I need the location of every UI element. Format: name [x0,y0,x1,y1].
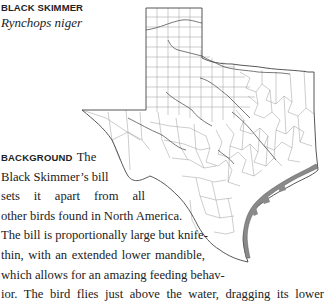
text-line-1: BACKGROUNDThe [1,148,111,168]
background-section: BACKGROUNDThe Black Skimmer’s bill sets … [1,148,324,305]
section-heading: BACKGROUND [1,152,73,163]
text-line-8: ior. The bird flies just above the water… [1,285,324,305]
text-line-4: other birds found in North America. [1,207,196,227]
text-line-5: The bill is proportionally large but kni… [1,226,206,246]
text-line-6: thin, with an extended lower mandible, [1,246,205,266]
text-line-2: Black Skimmer’s bill [1,168,142,188]
text-line-7: which allows for an amazing feeding beha… [1,266,213,286]
text-line-3: sets it apart from all [1,187,145,207]
